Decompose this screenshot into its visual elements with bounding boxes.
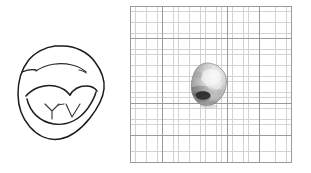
rock-texture-mottle-1 xyxy=(194,72,203,78)
figure-root xyxy=(0,0,311,173)
line-drawing-svg xyxy=(0,0,125,173)
rock-contact-shadow xyxy=(200,104,218,108)
rock-specimen xyxy=(190,62,228,108)
rock-specimen-svg xyxy=(190,62,228,108)
outer-outline-path xyxy=(18,46,104,139)
line-drawing-panel xyxy=(0,0,125,173)
photograph-panel xyxy=(130,6,292,163)
rock-secondary-highlight xyxy=(206,78,222,90)
